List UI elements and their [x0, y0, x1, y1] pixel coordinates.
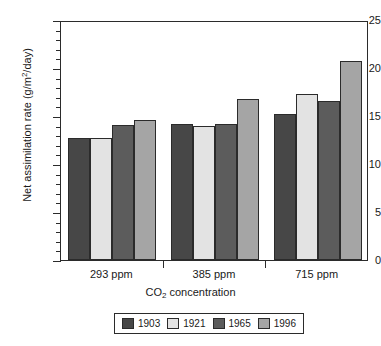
legend-item: 1921 [167, 318, 205, 329]
x-axis-title: CO2 concentration [0, 286, 381, 300]
bar [193, 126, 215, 260]
bar [134, 120, 156, 260]
legend-item: 1965 [213, 318, 251, 329]
legend-item: 1996 [258, 318, 296, 329]
legend: 1903192119651996 [114, 313, 304, 334]
legend-label: 1965 [229, 318, 251, 329]
x-group-label: 293 ppm [60, 268, 163, 280]
legend-label: 1996 [274, 318, 296, 329]
x-group-label: 715 ppm [265, 268, 368, 280]
bar-chart: Net assimilation rate (g/m2/day) 0510152… [0, 0, 381, 346]
x-tick [163, 261, 164, 268]
plot-area [60, 21, 368, 261]
legend-swatch [167, 318, 179, 329]
bar [318, 101, 340, 260]
bar [215, 124, 237, 260]
legend-label: 1903 [138, 318, 160, 329]
x-tick [265, 261, 266, 268]
legend-swatch [213, 318, 225, 329]
bar [274, 114, 296, 260]
bar [171, 124, 193, 260]
bar [296, 94, 318, 260]
bar [112, 125, 134, 260]
legend-item: 1903 [122, 318, 160, 329]
x-group-label: 385 ppm [163, 268, 266, 280]
legend-swatch [122, 318, 134, 329]
bar [68, 138, 90, 260]
bar [237, 99, 259, 260]
legend-label: 1921 [183, 318, 205, 329]
bar [340, 61, 362, 260]
legend-swatch [258, 318, 270, 329]
bar [90, 138, 112, 260]
y-tick-major [53, 261, 61, 262]
y-axis-title: Net assimilation rate (g/m2/day) [21, 5, 35, 245]
